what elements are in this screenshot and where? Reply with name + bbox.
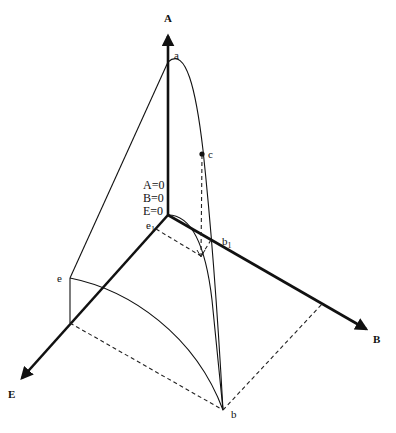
phase-diagram: A B E A=0 B=0 E=0 a c e b e1 b1 <box>0 0 396 433</box>
axis-b-label: B <box>373 333 381 345</box>
point-c <box>199 151 204 156</box>
axis-a-label: A <box>164 12 172 24</box>
origin-condition-a: A=0 <box>143 178 164 192</box>
point-e-label: e <box>57 272 62 284</box>
point-c-label: c <box>208 148 213 160</box>
line-a-to-e <box>70 62 168 278</box>
dash-e-to-b <box>70 323 223 410</box>
point-e1-label: e1 <box>146 219 155 234</box>
point-a-label: a <box>174 49 179 61</box>
origin-condition-e: E=0 <box>143 204 163 218</box>
curve-origin-to-b <box>168 215 223 410</box>
axis-b <box>168 215 366 329</box>
axis-e <box>22 215 168 378</box>
axis-e-label: E <box>8 388 15 400</box>
dash-c-drop <box>201 155 202 256</box>
dash-b-to-b-axis <box>223 304 322 410</box>
origin-condition-b: B=0 <box>143 191 164 205</box>
point-b-label: b <box>231 408 237 420</box>
